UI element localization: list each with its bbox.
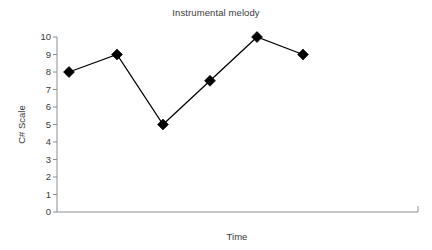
data-point-6 [298, 49, 309, 60]
data-point-2 [112, 49, 123, 60]
y-tick-label-1: 1 [46, 189, 51, 200]
line-chart-plot: 10 9 8 7 6 5 4 3 2 1 0 [0, 0, 432, 250]
x-axis-title: Time [227, 231, 248, 242]
y-tick-label-4: 4 [46, 136, 51, 147]
y-tick-label-6: 6 [46, 101, 51, 112]
chart-screenshot: Instrumental melody 10 9 8 7 6 5 4 3 2 1… [0, 0, 432, 250]
data-point-markers [64, 32, 309, 131]
y-axis-ticks [53, 37, 57, 212]
y-axis-title: C# Scale [16, 105, 27, 144]
y-tick-label-9: 9 [46, 49, 51, 60]
y-tick-label-10: 10 [40, 31, 51, 42]
y-tick-label-3: 3 [46, 154, 51, 165]
series-line [69, 37, 303, 125]
y-tick-label-8: 8 [46, 66, 51, 77]
y-tick-label-7: 7 [46, 84, 51, 95]
y-tick-label-2: 2 [46, 171, 51, 182]
data-point-1 [64, 67, 75, 78]
y-tick-label-0: 0 [46, 206, 51, 217]
y-tick-label-5: 5 [46, 119, 51, 130]
